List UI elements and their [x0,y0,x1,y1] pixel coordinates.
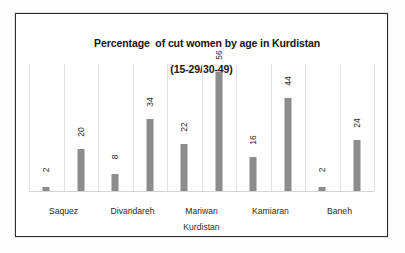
category-label: Saquez [29,206,98,216]
category-axis-labels: SaquezDivandarehMariwanKamiaranBaneh [29,206,374,222]
bar-slot: 8 [98,64,133,191]
bar-value-label: 20 [76,127,86,136]
category-label: Divandareh [98,206,167,216]
bar-value-label: 22 [179,123,189,132]
category-label: Kamiaran [236,206,305,216]
bar-value-label: 2 [317,167,327,172]
bar-slot: 2 [305,64,340,191]
plot-area: 22083422561644224 [29,64,374,191]
bar-slot: 2 [29,64,64,191]
bar-slot: 22 [167,64,202,191]
bar[interactable] [250,157,257,191]
bar-value-label: 8 [110,155,120,160]
bar[interactable] [77,149,84,191]
bar-value-label: 56 [214,51,224,60]
bar[interactable] [112,174,119,191]
bar-value-label: 44 [283,76,293,85]
bar[interactable] [181,144,188,191]
bar-slot: 56 [202,64,237,191]
bar-slot: 34 [133,64,168,191]
category-axis-line [29,191,374,192]
chart-title-line-1: Percentage of cut women by age in Kurdis… [94,37,320,49]
category-label: Mariwan [167,206,236,216]
bar[interactable] [146,119,153,191]
bar-value-label: 2 [41,167,51,172]
x-axis-title: Kurdistan [29,222,374,232]
chart-frame: Percentage of cut women by age in Kurdis… [15,13,388,237]
bar-slot: 44 [271,64,306,191]
category-label: Baneh [305,206,374,216]
bar-slot: 20 [64,64,99,191]
bar-slot: 16 [236,64,271,191]
bar-slot: 24 [340,64,375,191]
bar-value-label: 24 [352,118,362,127]
bar-value-label: 16 [248,135,258,144]
bar[interactable] [353,140,360,191]
gridline [374,64,375,191]
bar[interactable] [284,98,291,191]
bar[interactable] [215,72,222,191]
bar-value-label: 34 [145,97,155,106]
